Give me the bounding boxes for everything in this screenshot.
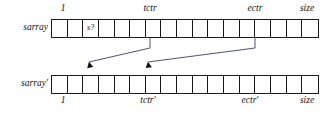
array-cell	[177, 20, 193, 37]
array-cell	[68, 20, 84, 37]
array-cell	[68, 76, 84, 93]
array-cell	[130, 76, 146, 93]
array-cell	[146, 20, 162, 37]
arrow-tctr-to-tctr-prime	[89, 48, 150, 62]
pointer-arrows	[89, 48, 255, 62]
array-cell	[115, 76, 131, 93]
array-cell	[224, 76, 240, 93]
row-label-sarray: sarray	[0, 22, 48, 32]
array-cell-text: s?	[87, 24, 94, 32]
index-label-ectr: ectr	[248, 4, 263, 14]
index-label-tctr: tctr	[143, 4, 156, 14]
index-label-size: size	[300, 96, 314, 106]
array-compaction-diagram: sarray sarray′ s? 1tctrectrsize1tctr′ect…	[0, 0, 329, 117]
array-cell	[302, 20, 318, 37]
array-cell	[99, 76, 115, 93]
array-cell	[255, 20, 271, 37]
index-label-start: 1	[61, 4, 66, 14]
array-cell	[193, 20, 209, 37]
array-cell	[240, 76, 256, 93]
array-cell	[240, 20, 256, 37]
array-cell	[52, 20, 68, 37]
array-cell	[208, 20, 224, 37]
array-cell	[161, 76, 177, 93]
index-label-tctr-prime: tctr′	[140, 96, 155, 106]
array-cell	[161, 20, 177, 37]
index-label-ectr-prime: ectr′	[242, 96, 259, 106]
row-label-sarray-prime: sarray′	[0, 78, 48, 88]
array-cell	[83, 76, 99, 93]
arrow-ectr-to-ectr-prime	[148, 48, 255, 62]
array-cell	[302, 76, 318, 93]
array-cell: s?	[83, 20, 99, 37]
array-cell	[271, 76, 287, 93]
index-label-size: size	[300, 4, 314, 14]
array-cell	[287, 76, 303, 93]
pointer-ticks	[150, 38, 255, 48]
array-cell	[208, 76, 224, 93]
array-cell	[130, 20, 146, 37]
array-cell	[193, 76, 209, 93]
array-cell	[287, 20, 303, 37]
array-cell	[146, 76, 162, 93]
array-cell	[99, 20, 115, 37]
array-cell	[115, 20, 131, 37]
index-label-start: 1	[61, 96, 66, 106]
array-cell	[177, 76, 193, 93]
array-cell	[52, 76, 68, 93]
array-sarray: s?	[51, 19, 319, 38]
array-cell	[224, 20, 240, 37]
array-cell	[271, 20, 287, 37]
array-sarray-prime	[51, 75, 319, 94]
array-cell	[255, 76, 271, 93]
